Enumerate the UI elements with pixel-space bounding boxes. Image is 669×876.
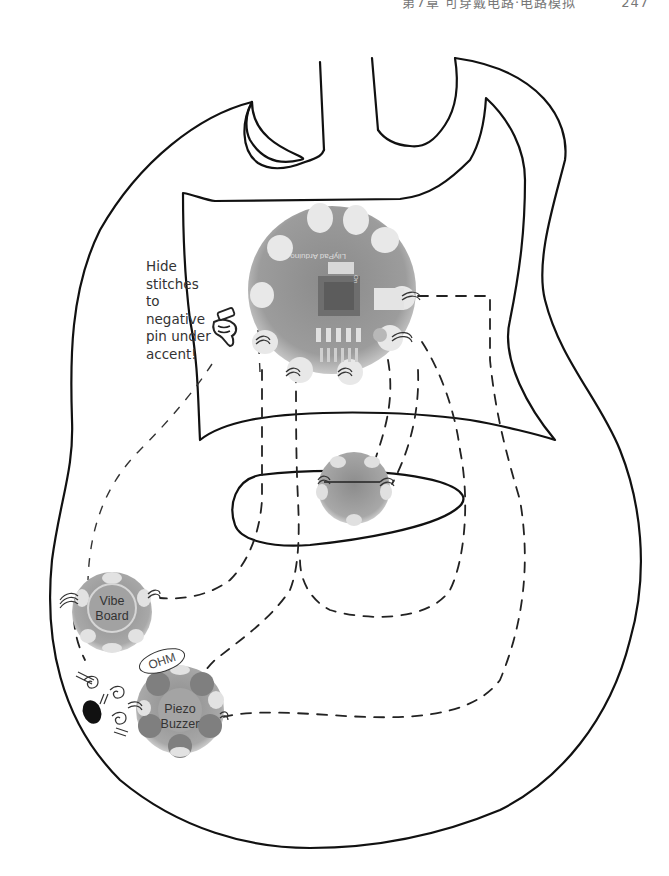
switch-and-loops — [76, 672, 128, 736]
vibe-board-label: Vibe Board — [88, 594, 136, 624]
annotation-note: Hide stitches to negative pin under acce… — [146, 258, 211, 363]
sensor-board — [316, 452, 394, 526]
guitar-circuit-diagram: LilyPad Arduino On — [0, 0, 669, 876]
board-silkscreen: LilyPad Arduino — [290, 252, 346, 261]
piezo-buzzer-label: Piezo Buzzer — [154, 702, 206, 732]
pointing-hand-icon — [213, 308, 236, 346]
spiral-loops — [76, 672, 128, 736]
on-label: On — [353, 275, 359, 283]
lilypad-main-board: LilyPad Arduino On — [248, 203, 416, 385]
